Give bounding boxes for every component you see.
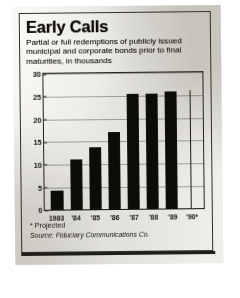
bar <box>51 190 63 210</box>
y-axis-tick-label: 20 <box>33 115 44 124</box>
bar <box>70 160 83 210</box>
source-line: Source: Fiduciary Communications Co. <box>30 230 207 239</box>
y-axis-ticks <box>26 66 207 68</box>
bars-group <box>43 72 203 210</box>
bar <box>165 92 178 209</box>
x-axis-tick-label: '86 <box>105 214 124 221</box>
bar-slot <box>104 73 125 209</box>
y-axis-tick-label: 15 <box>33 137 44 146</box>
x-axis-tick-label: '84 <box>66 215 85 222</box>
bar-slot <box>161 73 182 209</box>
x-axis-tick-label: 1983 <box>47 215 66 222</box>
bar-chart: 051015202530 1983'84'85'86'87'88'89'90* <box>26 66 209 220</box>
y-axis-tick-label: 10 <box>34 160 45 169</box>
x-axis-tick-label: '87 <box>124 214 143 221</box>
y-axis-tick-label: 5 <box>38 183 45 192</box>
page-title: Early Calls <box>26 17 205 36</box>
newspaper-clipping: Early Calls Partial or full redemptions … <box>13 5 224 265</box>
bar-slot <box>85 73 106 209</box>
plot-area: 051015202530 <box>42 71 204 211</box>
bar <box>189 91 192 209</box>
bar-slot <box>65 74 86 210</box>
bar-slot <box>46 74 67 210</box>
torn-paper-edge <box>15 257 223 275</box>
bar-slot <box>142 73 163 209</box>
bar <box>108 132 121 209</box>
y-axis-tick-label: 30 <box>33 69 44 78</box>
bar <box>146 93 159 209</box>
clipping-content: Early Calls Partial or full redemptions … <box>13 5 221 7</box>
bar-slot <box>123 73 144 209</box>
chart-subtitle: Partial or full redemptions of publicly … <box>26 36 198 66</box>
y-axis-tick-label: 0 <box>38 205 45 214</box>
x-axis-tick-label: '90* <box>182 213 201 220</box>
bar-slot <box>180 72 201 208</box>
bar <box>127 93 140 209</box>
y-axis-tick-label: 25 <box>33 92 44 101</box>
chart-frame: Early Calls Partial or full redemptions … <box>19 11 214 253</box>
x-axis-tick-label: '88 <box>144 214 163 221</box>
x-axis-tick-label: '89 <box>163 214 182 221</box>
x-axis-tick-label: '85 <box>86 214 105 221</box>
bar <box>89 147 102 209</box>
